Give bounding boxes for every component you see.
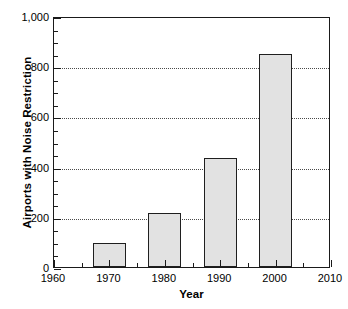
x-tick-2010 bbox=[331, 260, 332, 267]
y-minor-tick-700 bbox=[54, 93, 58, 94]
y-tick-label-600: 600 bbox=[1, 112, 49, 123]
y-minor-tick-100 bbox=[54, 244, 58, 245]
y-tick-label-400: 400 bbox=[1, 163, 49, 174]
x-tick-label-1980: 1980 bbox=[144, 273, 184, 284]
y-tick-label-800: 800 bbox=[1, 62, 49, 73]
x-tick-1970 bbox=[109, 260, 110, 267]
y-minor-tick-950 bbox=[54, 31, 58, 32]
bar-chart: Airports with Noise Restriction 02004006… bbox=[0, 0, 348, 309]
bar-1980 bbox=[148, 213, 181, 267]
y-minor-tick-850 bbox=[54, 56, 58, 57]
x-minor-tick-1975 bbox=[137, 263, 138, 267]
x-axis-title: Year bbox=[53, 288, 330, 300]
y-minor-tick-300 bbox=[54, 194, 58, 195]
y-minor-tick-550 bbox=[54, 131, 58, 132]
y-minor-tick-650 bbox=[54, 106, 58, 107]
y-minor-tick-500 bbox=[54, 144, 58, 145]
y-tick-400 bbox=[54, 169, 61, 170]
y-tick-label-200: 200 bbox=[1, 213, 49, 224]
x-tick-label-1960: 1960 bbox=[33, 273, 73, 284]
y-axis-title: Airports with Noise Restriction bbox=[18, 17, 36, 268]
y-minor-tick-50 bbox=[54, 256, 58, 257]
bar-2000 bbox=[259, 54, 292, 267]
x-tick-2000 bbox=[276, 260, 277, 267]
y-tick-600 bbox=[54, 118, 61, 119]
plot-area bbox=[53, 17, 330, 268]
y-minor-tick-900 bbox=[54, 43, 58, 44]
bar-1990 bbox=[204, 158, 237, 267]
x-tick-1990 bbox=[220, 260, 221, 267]
y-tick-200 bbox=[54, 219, 61, 220]
x-tick-label-1990: 1990 bbox=[199, 273, 239, 284]
y-tick-1000 bbox=[54, 18, 61, 19]
y-minor-tick-150 bbox=[54, 231, 58, 232]
y-tick-label-1000: 1,000 bbox=[1, 12, 49, 23]
y-minor-tick-350 bbox=[54, 181, 58, 182]
y-minor-tick-750 bbox=[54, 81, 58, 82]
x-minor-tick-1985 bbox=[193, 263, 194, 267]
x-tick-label-1970: 1970 bbox=[88, 273, 128, 284]
x-minor-tick-2005 bbox=[303, 263, 304, 267]
x-minor-tick-1965 bbox=[82, 263, 83, 267]
x-tick-label-2000: 2000 bbox=[255, 273, 295, 284]
y-minor-tick-450 bbox=[54, 156, 58, 157]
x-tick-1960 bbox=[54, 260, 55, 267]
y-tick-800 bbox=[54, 68, 61, 69]
x-tick-label-2010: 2010 bbox=[310, 273, 348, 284]
y-tick-0 bbox=[54, 269, 61, 270]
x-tick-1980 bbox=[165, 260, 166, 267]
y-minor-tick-250 bbox=[54, 206, 58, 207]
x-minor-tick-1995 bbox=[248, 263, 249, 267]
